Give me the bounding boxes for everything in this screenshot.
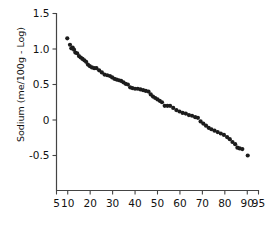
data-point	[196, 116, 200, 120]
axes	[57, 14, 259, 191]
x-tick-label: 20	[83, 197, 96, 209]
x-tick-label: 95	[252, 197, 265, 209]
data-point	[240, 147, 244, 151]
data-point	[160, 100, 164, 104]
x-tick-label: 30	[106, 197, 119, 209]
data-point	[65, 36, 69, 40]
axis-spines	[57, 14, 259, 191]
x-tick-label: 70	[196, 197, 209, 209]
data-points-series-sodium	[65, 36, 250, 157]
plot-canvas: 510203040506070809095 1.51.00.50-0.5 Sod…	[0, 0, 272, 225]
y-tick-label: 0	[43, 114, 50, 126]
scatter-chart-figure: 510203040506070809095 1.51.00.50-0.5 Sod…	[0, 0, 272, 225]
y-axis-title-text: Sodium (me/100g - Log)	[15, 27, 26, 142]
y-axis-tick-labels: 1.51.00.50-0.5	[29, 7, 50, 161]
data-point	[246, 153, 250, 157]
y-tick-label: -0.5	[29, 149, 50, 161]
x-tick-label: 40	[128, 197, 141, 209]
y-tick-label: 0.5	[33, 78, 50, 90]
y-axis-title: Sodium (me/100g - Log)	[15, 27, 26, 142]
data-point	[233, 142, 237, 146]
x-axis-tick-labels: 510203040506070809095	[53, 197, 265, 209]
y-tick-label: 1.5	[33, 7, 50, 19]
x-tick-label: 50	[151, 197, 164, 209]
tick-marks	[53, 14, 259, 195]
x-tick-label: 80	[218, 197, 231, 209]
y-tick-label: 1.0	[33, 43, 50, 55]
x-tick-label: 10	[61, 197, 74, 209]
x-tick-label: 60	[173, 197, 186, 209]
x-tick-label: 5	[53, 197, 60, 209]
